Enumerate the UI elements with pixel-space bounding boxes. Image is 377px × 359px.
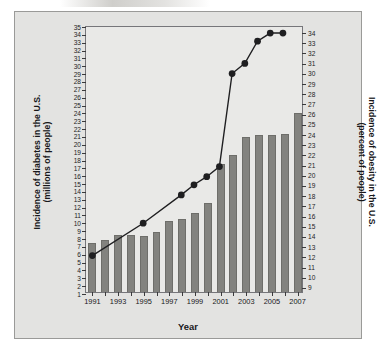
left-tick-16	[82, 176, 86, 177]
line-marker-2006	[280, 30, 287, 37]
right-tick-label-24: 24	[308, 132, 315, 139]
left-tick-23	[82, 121, 86, 122]
bar-1998	[178, 219, 186, 292]
x-tick-2005	[272, 292, 273, 296]
right-tick-label-20: 20	[308, 172, 315, 179]
bar-1997	[165, 221, 173, 292]
bar-2005	[268, 135, 276, 292]
x-tick-1991	[92, 292, 93, 296]
left-tick-label-13: 13	[74, 196, 81, 203]
right-tick-label-19: 19	[308, 182, 315, 189]
x-tick-1994	[131, 292, 132, 296]
chart-figure-panel: Incidence of diabetes in the U.S. (milli…	[14, 11, 362, 339]
left-tick-label-24: 24	[74, 110, 81, 117]
line-marker-2003	[241, 60, 248, 67]
x-tick-1999	[195, 292, 196, 296]
right-tick-label-22: 22	[308, 152, 315, 159]
left-tick-label-17: 17	[74, 165, 81, 172]
left-tick-label-7: 7	[77, 243, 81, 250]
right-tick-25	[302, 125, 306, 126]
left-tick-10	[82, 223, 86, 224]
left-tick-3	[82, 278, 86, 279]
left-tick-8	[82, 239, 86, 240]
left-tick-label-25: 25	[74, 102, 81, 109]
line-marker-2005	[267, 30, 274, 37]
left-tick-label-12: 12	[74, 204, 81, 211]
bar-1999	[191, 213, 199, 292]
left-tick-label-18: 18	[74, 157, 81, 164]
left-tick-label-32: 32	[74, 47, 81, 54]
left-tick-9	[82, 231, 86, 232]
right-tick-label-25: 25	[308, 121, 315, 128]
left-tick-label-34: 34	[74, 31, 81, 38]
x-axis-label-2007: 2007	[289, 297, 305, 306]
plot-inner: 1234567891011121314151617181920212223242…	[86, 27, 302, 292]
left-tick-label-10: 10	[74, 220, 81, 227]
right-tick-13	[302, 247, 306, 248]
left-tick-19	[82, 153, 86, 154]
x-axis-label-1991: 1991	[84, 297, 100, 306]
right-tick-label-9: 9	[308, 284, 312, 291]
x-axis-label-1995: 1995	[135, 297, 151, 306]
x-axis-label-2005: 2005	[264, 297, 280, 306]
left-tick-28	[82, 82, 86, 83]
right-tick-label-12: 12	[308, 254, 315, 261]
right-tick-16	[302, 217, 306, 218]
left-tick-label-19: 19	[74, 149, 81, 156]
left-tick-32	[82, 51, 86, 52]
left-tick-label-11: 11	[74, 212, 81, 219]
left-tick-label-2: 2	[77, 283, 81, 290]
bar-1995	[140, 236, 148, 292]
bar-1994	[127, 235, 135, 292]
bar-1996	[153, 232, 161, 292]
left-tick-label-1: 1	[77, 291, 81, 298]
left-tick-label-5: 5	[77, 259, 81, 266]
bar-1991	[88, 243, 96, 292]
bar-2004	[255, 135, 263, 292]
x-tick-1998	[182, 292, 183, 296]
right-tick-33	[302, 43, 306, 44]
right-tick-22	[302, 155, 306, 156]
right-tick-28	[302, 94, 306, 95]
x-tick-2003	[246, 292, 247, 296]
x-tick-2001	[221, 292, 222, 296]
x-axis-label-1993: 1993	[110, 297, 126, 306]
left-tick-14	[82, 192, 86, 193]
right-tick-30	[302, 74, 306, 75]
left-tick-21	[82, 137, 86, 138]
line-marker-2000	[203, 173, 210, 180]
left-axis-title-line1: Incidence of diabetes in the U.S.	[32, 94, 42, 229]
left-tick-label-14: 14	[74, 188, 81, 195]
left-tick-label-21: 21	[74, 133, 81, 140]
right-axis-title-line2: (percent of people)	[357, 122, 367, 201]
left-tick-11	[82, 215, 86, 216]
left-tick-4	[82, 270, 86, 271]
left-tick-24	[82, 113, 86, 114]
left-tick-15	[82, 184, 86, 185]
x-axis-label-1999: 1999	[187, 297, 203, 306]
left-tick-17	[82, 168, 86, 169]
x-tick-2004	[259, 292, 260, 296]
right-tick-label-31: 31	[308, 60, 315, 67]
x-tick-1992	[105, 292, 106, 296]
right-tick-29	[302, 84, 306, 85]
left-tick-31	[82, 58, 86, 59]
right-axis-title: Incidence of obesity in the U.S. (percen…	[357, 72, 377, 252]
left-tick-20	[82, 145, 86, 146]
bar-2001	[217, 164, 225, 292]
right-tick-label-10: 10	[308, 274, 315, 281]
right-tick-21	[302, 166, 306, 167]
right-tick-label-21: 21	[308, 162, 315, 169]
left-tick-12	[82, 208, 86, 209]
left-tick-27	[82, 90, 86, 91]
left-tick-33	[82, 43, 86, 44]
plot-area: 1234567891011121314151617181920212223242…	[85, 26, 303, 293]
right-tick-label-28: 28	[308, 91, 315, 98]
left-tick-label-26: 26	[74, 94, 81, 101]
left-tick-22	[82, 129, 86, 130]
left-tick-7	[82, 247, 86, 248]
x-axis-title: Year	[15, 321, 361, 332]
left-tick-18	[82, 161, 86, 162]
bar-1992	[101, 240, 109, 292]
left-tick-label-3: 3	[77, 275, 81, 282]
